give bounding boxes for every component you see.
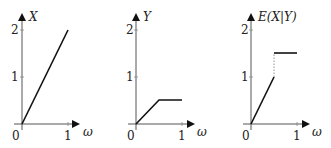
- y-axis-label: E(X|Y): [257, 10, 297, 24]
- tick-label-origin: 0: [242, 129, 250, 143]
- panel-conditional-expectation: 0 1 1 2 E(X|Y) ω: [241, 10, 322, 143]
- x-axis-label: ω: [197, 125, 207, 139]
- tick-label-y2: 2: [241, 23, 249, 37]
- x-axis-label: ω: [312, 125, 322, 139]
- y-axis-label: X: [28, 10, 38, 24]
- tick-label-y2: 2: [11, 23, 19, 37]
- tick-label-x1: 1: [293, 129, 301, 143]
- tick-label-y2: 2: [126, 23, 134, 37]
- tick-label-x1: 1: [64, 129, 72, 143]
- tick-label-y1: 1: [11, 70, 19, 84]
- series-line: [136, 100, 182, 124]
- series-line: [22, 30, 68, 124]
- x-axis-label: ω: [83, 125, 93, 139]
- tick-label-origin: 0: [127, 129, 135, 143]
- tick-label-y1: 1: [241, 70, 249, 84]
- panel-y: 0 1 1 2 Y ω: [126, 10, 207, 143]
- series-segment-1: [251, 77, 274, 124]
- tick-label-x1: 1: [178, 129, 186, 143]
- figure: 0 1 1 2 X ω 0 1 1 2 Y ω 0 1 1 2 E(X|Y) ω: [0, 0, 331, 148]
- tick-label-y1: 1: [126, 70, 134, 84]
- y-axis-label: Y: [143, 10, 152, 24]
- tick-label-origin: 0: [12, 129, 20, 143]
- panel-x: 0 1 1 2 X ω: [11, 10, 93, 143]
